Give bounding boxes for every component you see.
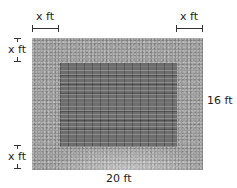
top-left-dimension xyxy=(32,25,59,33)
dimension-line xyxy=(32,28,59,29)
tick xyxy=(58,25,59,32)
tick xyxy=(14,168,21,169)
top-right-dimension xyxy=(176,25,203,33)
left-bottom-height-label: x ft xyxy=(8,151,26,163)
dimension-line xyxy=(17,38,18,42)
top-right-width-label: x ft xyxy=(180,11,198,23)
dimension-line xyxy=(17,145,18,149)
outer-height-label: 16 ft xyxy=(207,95,233,107)
inner-patio-region xyxy=(60,63,177,147)
top-left-width-label: x ft xyxy=(36,11,54,23)
tick xyxy=(202,25,203,32)
outer-width-label: 20 ft xyxy=(106,173,132,185)
left-top-height-label: x ft xyxy=(8,44,26,56)
dimension-line xyxy=(176,28,203,29)
tick xyxy=(14,61,21,62)
